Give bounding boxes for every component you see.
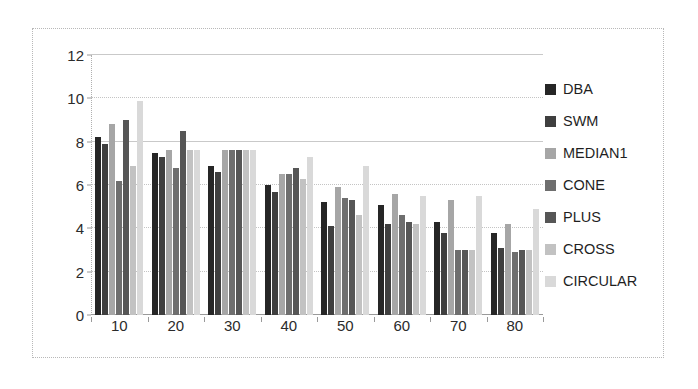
bar (363, 166, 369, 316)
bar-groups (91, 55, 543, 315)
bar (109, 124, 115, 315)
legend-swatch-icon (545, 276, 556, 287)
legend-item-label: CROSS (563, 241, 615, 257)
plot-area: 024681012 (91, 55, 543, 315)
legend-item[interactable]: DBA (545, 73, 657, 105)
legend-item[interactable]: CONE (545, 169, 657, 201)
x-axis-tick-mark (374, 317, 375, 322)
x-axis-tick-label: 10 (91, 317, 148, 334)
x-axis-tick-mark (261, 317, 262, 322)
bar (441, 233, 447, 315)
x-axis-tick-label: 40 (261, 317, 318, 334)
x-axis-tick-mark (543, 317, 544, 322)
legend-item-label: SWM (563, 113, 598, 129)
bar (222, 150, 228, 315)
bar (434, 222, 440, 315)
x-axis-tick-mark (204, 317, 205, 322)
bar (130, 166, 136, 316)
bar-group (374, 55, 431, 315)
legend-swatch-icon (545, 84, 556, 95)
legend-swatch-icon (545, 180, 556, 191)
bar (265, 185, 271, 315)
bar (512, 252, 518, 315)
bar-group (91, 55, 148, 315)
legend-item-label: CONE (563, 177, 605, 193)
bar (385, 224, 391, 315)
legend-swatch-icon (545, 116, 556, 127)
bar-group (430, 55, 487, 315)
bar (505, 224, 511, 315)
legend-item-label: CIRCULAR (563, 273, 637, 289)
bar (272, 192, 278, 316)
x-axis-tick-labels: 1020304050607080 (91, 317, 543, 334)
bar (399, 215, 405, 315)
bar (137, 101, 143, 316)
bar-group (261, 55, 318, 315)
bar (455, 250, 461, 315)
legend-item-label: MEDIAN1 (563, 145, 627, 161)
bar (321, 202, 327, 315)
y-axis-tick-label: 6 (76, 177, 84, 194)
bar (307, 157, 313, 315)
bar (300, 179, 306, 316)
bar-group (204, 55, 261, 315)
bar (116, 181, 122, 315)
bar (279, 174, 285, 315)
legend-item[interactable]: CROSS (545, 233, 657, 265)
bar (152, 153, 158, 316)
bar (102, 144, 108, 315)
bar (166, 150, 172, 315)
bar (215, 172, 221, 315)
bar (123, 120, 129, 315)
bar (328, 226, 334, 315)
bar (448, 200, 454, 315)
bar (95, 137, 101, 315)
bar (243, 150, 249, 315)
bar (349, 200, 355, 315)
x-axis-tick-label: 50 (317, 317, 374, 334)
bar-group (317, 55, 374, 315)
chart-legend: DBASWMMEDIAN1CONEPLUSCROSSCIRCULAR (545, 73, 657, 297)
legend-item[interactable]: SWM (545, 105, 657, 137)
y-axis-tick-label: 0 (76, 307, 84, 324)
x-axis-tick-label: 60 (374, 317, 431, 334)
x-axis-tick-label: 80 (487, 317, 544, 334)
bar-group (148, 55, 205, 315)
bar (356, 215, 362, 315)
legend-swatch-icon (545, 148, 556, 159)
bar (229, 150, 235, 315)
bar (180, 131, 186, 315)
bar (392, 194, 398, 315)
bar (250, 150, 256, 315)
bar (187, 150, 193, 315)
bar (286, 174, 292, 315)
x-axis-tick-mark (317, 317, 318, 322)
bar (476, 196, 482, 315)
bar (420, 196, 426, 315)
y-axis-tick-label: 2 (76, 263, 84, 280)
x-axis-tick-label: 70 (430, 317, 487, 334)
bar (236, 150, 242, 315)
bar (491, 233, 497, 315)
y-axis-tick-label: 10 (67, 90, 84, 107)
bar (498, 248, 504, 315)
x-axis-tick-label: 30 (204, 317, 261, 334)
y-axis-tick-label: 12 (67, 47, 84, 64)
chart-frame: 024681012 1020304050607080 DBASWMMEDIAN1… (32, 28, 664, 358)
bar-group (487, 55, 544, 315)
bar (208, 166, 214, 316)
y-axis-tick-label: 4 (76, 220, 84, 237)
x-axis-tick-mark (148, 317, 149, 322)
bar (519, 250, 525, 315)
x-axis-tick-mark (487, 317, 488, 322)
legend-item[interactable]: PLUS (545, 201, 657, 233)
bar (335, 187, 341, 315)
legend-item-label: PLUS (563, 209, 601, 225)
bar (533, 209, 539, 315)
bar (342, 198, 348, 315)
bar (462, 250, 468, 315)
legend-item[interactable]: MEDIAN1 (545, 137, 657, 169)
bar (406, 222, 412, 315)
legend-item[interactable]: CIRCULAR (545, 265, 657, 297)
x-axis-tick-mark (430, 317, 431, 322)
